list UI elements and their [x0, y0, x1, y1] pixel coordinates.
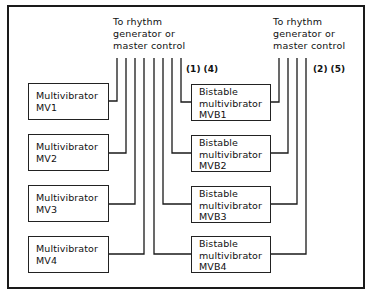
block-mvb2: Bistable multivibrator MVB2 [191, 135, 271, 172]
block-mvb4: Bistable multivibrator MVB4 [191, 236, 271, 273]
wire-mv3-left-bus [108, 58, 135, 204]
right-bus-note: (2) (5) [313, 64, 345, 74]
right-bus-label: To rhythm generator or master control [273, 16, 345, 52]
block-mv2: Multivibrator MV2 [28, 134, 109, 171]
block-mvb3: Bistable multivibrator MVB3 [191, 186, 271, 223]
block-mv3: Multivibrator MV3 [28, 185, 109, 222]
multivibrator-block-diagram: To rhythm generator or master control To… [0, 0, 371, 295]
wire-mvb3-right-bus [270, 58, 297, 204]
wire-mvb1-right-bus [270, 58, 279, 102]
left-bus-note: (1) (4) [186, 64, 218, 74]
wire-mv1-left-bus [108, 58, 117, 101]
left-bus-label: To rhythm generator or master control [113, 16, 185, 52]
block-mv4: Multivibrator MV4 [28, 236, 109, 273]
block-mv1: Multivibrator MV1 [28, 83, 109, 120]
block-mvb1: Bistable multivibrator MVB1 [191, 84, 271, 121]
wire-mvb3-left-bus [163, 58, 191, 204]
